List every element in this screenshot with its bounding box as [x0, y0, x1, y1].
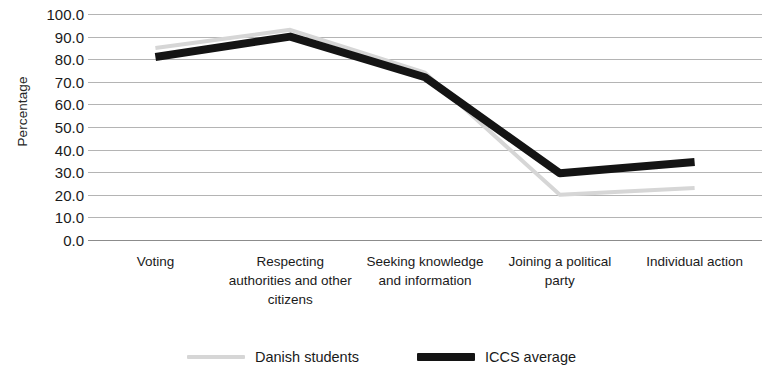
series-line — [155, 37, 694, 174]
y-axis-tick-label: 0.0 — [22, 233, 84, 248]
legend-entry[interactable]: ICCS average — [417, 349, 576, 365]
x-axis-category-label: Respecting authorities and other citizen… — [223, 252, 358, 332]
y-axis-tick-label: 30.0 — [22, 165, 84, 180]
series-lines — [88, 14, 762, 240]
plot-area — [88, 14, 762, 240]
x-axis-category-label: Seeking knowledge and information — [358, 252, 493, 332]
x-axis-baseline — [88, 240, 762, 241]
y-axis-tick-label: 90.0 — [22, 29, 84, 44]
x-axis-category-label: Individual action — [627, 252, 762, 332]
y-axis-tick-label: 40.0 — [22, 142, 84, 157]
y-axis-tick-label: 20.0 — [22, 187, 84, 202]
y-axis-tick-label: 100.0 — [22, 7, 84, 22]
x-axis-category-labels: VotingRespecting authorities and other c… — [88, 252, 762, 332]
legend-label: ICCS average — [485, 349, 576, 365]
y-axis-tick-label: 50.0 — [22, 120, 84, 135]
chart-legend: Danish studentsICCS average — [0, 344, 763, 370]
legend-line-swatch — [187, 355, 245, 359]
y-axis-tick-label: 80.0 — [22, 52, 84, 67]
y-axis-tick-label: 60.0 — [22, 97, 84, 112]
y-axis-tick-labels: 100.090.080.070.060.050.040.030.020.010.… — [22, 0, 84, 248]
legend-label: Danish students — [255, 349, 359, 365]
y-axis-tick-label: 10.0 — [22, 210, 84, 225]
x-axis-category-label: Voting — [88, 252, 223, 332]
line-chart: Percentage 100.090.080.070.060.050.040.0… — [0, 0, 763, 373]
legend-line-swatch — [417, 353, 475, 361]
y-axis-tick-label: 70.0 — [22, 74, 84, 89]
x-axis-category-label: Joining a political party — [492, 252, 627, 332]
legend-entry[interactable]: Danish students — [187, 349, 359, 365]
